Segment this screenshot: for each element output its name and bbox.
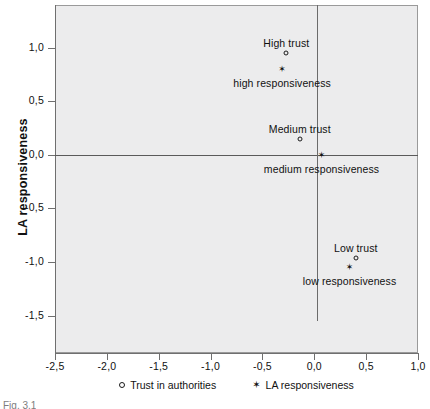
- x-axis-tick: [262, 353, 263, 360]
- legend-label-trust: Trust in authorities: [130, 379, 216, 391]
- data-point-star: ✶: [318, 150, 326, 159]
- y-axis-tick-label: -1,5: [25, 309, 44, 321]
- x-axis-tick-label: 0,0: [307, 360, 322, 372]
- data-point-circle: [284, 51, 289, 56]
- y-axis-tick-label: 0,5: [29, 94, 44, 106]
- legend-item-responsiveness: ✶ LA responsiveness: [252, 379, 354, 391]
- y-axis-tick-label: -0,5: [25, 201, 44, 213]
- x-axis-tick: [55, 353, 56, 360]
- y-axis-tick: [48, 316, 55, 317]
- y-axis-tick: [48, 155, 55, 156]
- y-axis-tick: [48, 48, 55, 49]
- x-axis-tick-label: -2,0: [97, 360, 116, 372]
- data-point-label: High trust: [263, 37, 309, 49]
- figure-caption: Fig. 3.1: [3, 400, 36, 409]
- y-axis-line: [55, 5, 56, 354]
- x-axis-tick-label: -1,5: [149, 360, 168, 372]
- x-axis-tick-label: -1,0: [201, 360, 220, 372]
- x-axis-tick: [418, 353, 419, 360]
- figure-scatter-plot: LA responsiveness 1,00,50,0-0,5-1,0-1,5-…: [0, 0, 430, 409]
- y-axis-tick-label: 0,0: [29, 148, 44, 160]
- x-axis-tick: [159, 353, 160, 360]
- data-point-label: high responsiveness: [233, 77, 331, 89]
- legend: Trust in authorities ✶ LA responsiveness: [55, 379, 418, 391]
- data-point-label: Low trust: [334, 242, 378, 254]
- y-axis-tick: [48, 208, 55, 209]
- x-axis-tick-label: 1,0: [410, 360, 425, 372]
- data-point-label: low responsiveness: [303, 275, 396, 287]
- y-axis-tick: [48, 262, 55, 263]
- data-point-star: ✶: [278, 65, 286, 74]
- x-axis-tick-label: -2,5: [46, 360, 65, 372]
- data-point-label: Medium trust: [269, 123, 331, 135]
- y-axis-tick-label: -1,0: [25, 255, 44, 267]
- x-axis-tick-label: -0,5: [253, 360, 272, 372]
- data-point-label: medium responsiveness: [264, 163, 379, 175]
- legend-item-trust: Trust in authorities: [119, 379, 216, 391]
- legend-label-responsiveness: LA responsiveness: [266, 379, 354, 391]
- plot-area: [55, 5, 418, 353]
- x-axis-tick: [107, 353, 108, 360]
- y-axis-tick: [48, 101, 55, 102]
- y-axis-tick-label: 1,0: [29, 41, 44, 53]
- x-axis-tick: [211, 353, 212, 360]
- open-circle-icon: [119, 382, 125, 388]
- data-point-circle: [297, 136, 302, 141]
- x-axis-tick-label: 0,5: [359, 360, 374, 372]
- x-axis-tick: [314, 353, 315, 360]
- data-point-star: ✶: [346, 263, 354, 272]
- star-icon: ✶: [252, 380, 260, 390]
- data-point-circle: [353, 255, 358, 260]
- x-axis-line: [55, 353, 419, 354]
- reference-line-horizontal: [55, 155, 418, 156]
- x-axis-tick: [366, 353, 367, 360]
